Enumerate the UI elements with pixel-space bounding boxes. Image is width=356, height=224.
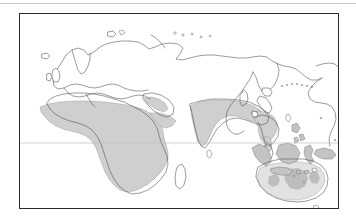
island-arc-aleutians <box>281 83 313 88</box>
coast-tasmania <box>313 205 319 208</box>
coast-new-guinea <box>314 148 336 159</box>
coast-sri-lanka <box>207 150 212 158</box>
coast-madagascar <box>175 164 186 189</box>
coast-ireland <box>47 73 52 81</box>
coast-north-america <box>308 78 336 146</box>
arctic-islets <box>174 32 211 38</box>
coast-alaska-north <box>316 63 338 67</box>
coast-scandinavia <box>72 50 90 74</box>
top-horizontal-rule <box>0 3 356 4</box>
coast-mediterranean-north <box>64 88 150 99</box>
coast-svalbard <box>108 31 116 37</box>
coast-europe <box>53 55 148 91</box>
map-frame <box>19 13 339 209</box>
coast-philippines <box>292 123 305 143</box>
coast-eurasia-north <box>66 41 322 80</box>
world-map <box>20 14 338 208</box>
coast-borneo <box>276 143 300 164</box>
coast-taiwan <box>286 114 291 122</box>
range-sub-saharan-africa <box>40 101 168 192</box>
page-root <box>0 0 356 224</box>
coast-iceland <box>42 53 50 59</box>
coast-novaya-zemlya <box>151 35 165 48</box>
figure-container <box>19 13 339 209</box>
coast-britain <box>52 68 60 82</box>
range-south-asia <box>190 100 264 146</box>
coast-svalbard-islet <box>119 30 125 35</box>
